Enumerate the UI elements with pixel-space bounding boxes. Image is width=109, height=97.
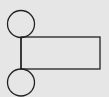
top-circle: [8, 11, 35, 38]
main-rectangle: [21, 37, 100, 69]
bottom-circle: [8, 69, 35, 96]
diagram-canvas: [0, 0, 109, 97]
